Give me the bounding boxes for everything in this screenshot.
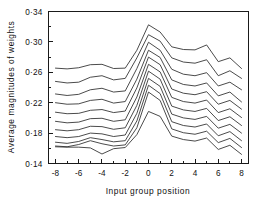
x-tick-label: 8 (239, 169, 244, 178)
series-line-curve-4 (55, 50, 241, 104)
data-series-group (55, 25, 241, 155)
x-axis-tick-labels: -8-6-4-202468 (52, 169, 245, 178)
y-tick-label: 0·30 (25, 38, 42, 47)
y-tick-label: 0·22 (25, 99, 42, 108)
x-tick-label: 6 (216, 169, 221, 178)
y-axis-tick-labels: 0·140·180·220·260·300·34 (25, 8, 42, 169)
series-line-curve-1 (55, 25, 241, 69)
line-chart: -8-6-4-202468 0·140·180·220·260·300·34 I… (0, 0, 261, 202)
x-axis-title: Input group position (106, 186, 191, 196)
x-tick-label: -2 (121, 169, 129, 178)
y-tick-label: 0·26 (25, 68, 42, 77)
figure-container: -8-6-4-202468 0·140·180·220·260·300·34 I… (0, 0, 261, 202)
x-tick-label: 4 (193, 169, 198, 178)
x-axis-major-ticks (55, 159, 241, 164)
x-tick-label: -8 (52, 169, 60, 178)
x-tick-label: -6 (75, 169, 83, 178)
y-tick-label: 0·18 (25, 129, 42, 138)
series-line-curve-6 (55, 64, 241, 123)
y-tick-label: 0·14 (25, 160, 42, 169)
y-axis-title: Average magnitudes of weights (6, 21, 16, 154)
series-line-curve-11 (55, 111, 241, 154)
y-tick-label: 0·34 (25, 8, 42, 17)
series-line-curve-10 (55, 92, 241, 147)
series-line-curve-9 (55, 85, 241, 143)
x-tick-label: -4 (98, 169, 106, 178)
x-tick-label: 2 (169, 169, 174, 178)
x-tick-label: 0 (146, 169, 151, 178)
